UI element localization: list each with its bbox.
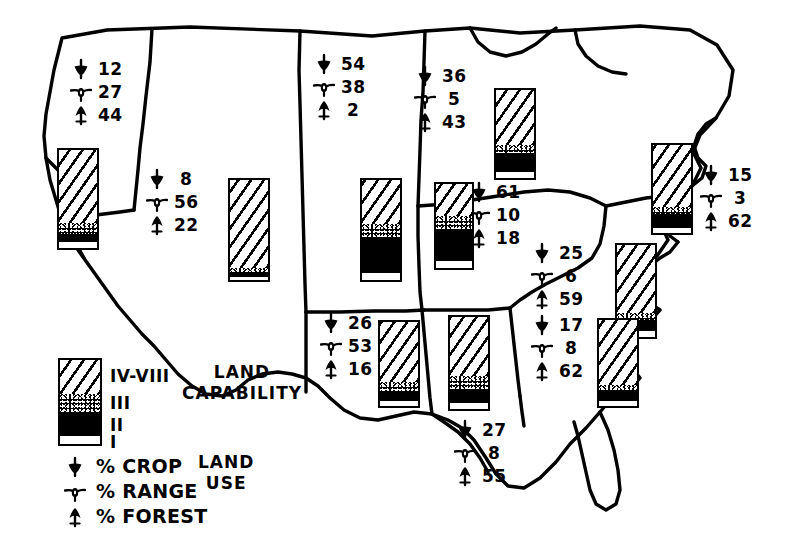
crop-arrow-down-icon xyxy=(320,312,342,334)
stat-value-range: 8 xyxy=(488,442,500,464)
stat-row-crop: 8 xyxy=(146,167,199,190)
capability-bar-delta-states xyxy=(448,315,490,411)
crop-arrow-down-icon xyxy=(313,53,335,75)
capability-bar-pacific xyxy=(57,148,99,250)
stat-value-forest: 18 xyxy=(496,227,521,249)
capability-segment-ii xyxy=(362,237,400,273)
range-circle-icon xyxy=(70,81,92,103)
legend-segment-iii xyxy=(60,394,100,412)
stat-row-crop: 15 xyxy=(700,163,753,186)
range-circle-icon xyxy=(414,88,436,110)
crop-arrow-down-icon xyxy=(320,312,342,334)
capability-segment-ii xyxy=(653,214,691,228)
stat-row-range: 6 xyxy=(531,264,584,287)
range-circle-icon xyxy=(64,481,86,503)
region-stats-appalachian: 25659 xyxy=(531,241,584,310)
range-circle-icon xyxy=(531,337,553,359)
range-circle-icon xyxy=(320,335,342,357)
legend-class-label-i: I xyxy=(110,434,117,451)
stat-row-crop: 17 xyxy=(531,313,584,336)
stat-row-crop: 26 xyxy=(320,311,373,334)
legend-segment-i xyxy=(60,436,100,444)
stat-row-forest: 55 xyxy=(454,464,507,487)
legend-class-label-iv-viii: IV-VIII xyxy=(110,368,170,385)
legend-class-label-iii: III xyxy=(110,395,130,412)
stat-row-forest: 62 xyxy=(700,209,753,232)
crop-arrow-down-icon xyxy=(146,168,168,190)
forest-tree-icon xyxy=(531,360,553,382)
stat-row-range: 56 xyxy=(146,190,199,213)
capability-segment-i xyxy=(380,401,418,406)
capability-segment-iii xyxy=(496,145,534,154)
stat-value-crop: 36 xyxy=(442,65,467,87)
capability-segment-iv-viii xyxy=(362,180,400,224)
range-circle-icon xyxy=(414,88,436,110)
capability-bar-northeast xyxy=(651,143,693,235)
range-circle-icon xyxy=(313,76,335,98)
crop-arrow-down-icon xyxy=(531,314,553,336)
capability-bar-corn-belt xyxy=(434,182,474,270)
crop-arrow-down-icon xyxy=(64,456,86,478)
range-circle-icon xyxy=(531,265,553,287)
capability-segment-i xyxy=(59,242,97,248)
crop-arrow-down-icon xyxy=(454,419,476,441)
stat-value-crop: 26 xyxy=(348,312,373,334)
capability-bar-lake-states xyxy=(494,88,536,180)
stat-row-crop: 54 xyxy=(313,52,366,75)
region-stats-southern-plains: 265316 xyxy=(320,311,373,380)
capability-segment-iv-viii xyxy=(599,320,637,385)
stat-value-forest: 22 xyxy=(174,214,199,236)
forest-tree-icon xyxy=(320,358,342,380)
stat-row-range: 3 xyxy=(700,186,753,209)
capability-segment-ii xyxy=(599,391,637,400)
crop-arrow-down-icon xyxy=(70,58,92,80)
stat-row-forest: 2 xyxy=(313,98,366,121)
capability-segment-iv-viii xyxy=(450,317,488,376)
crop-arrow-down-icon xyxy=(700,164,722,186)
crop-arrow-down-icon xyxy=(414,65,436,87)
capability-segment-i xyxy=(436,261,472,268)
stat-value-range: 5 xyxy=(448,88,460,110)
range-circle-icon xyxy=(70,81,92,103)
legend-key-label: % RANGE xyxy=(96,479,198,504)
caption-land-capability: LANDCAPABILITY xyxy=(182,362,302,404)
stat-value-crop: 8 xyxy=(180,168,192,190)
stat-value-crop: 17 xyxy=(559,314,584,336)
stat-row-range: 8 xyxy=(531,336,584,359)
stat-row-range: 27 xyxy=(70,80,123,103)
forest-tree-icon xyxy=(700,210,722,232)
stat-row-crop: 27 xyxy=(454,418,507,441)
range-circle-icon xyxy=(146,191,168,213)
caption-line: USE xyxy=(198,473,254,494)
forest-tree-icon xyxy=(454,465,476,487)
forest-tree-icon xyxy=(700,210,722,232)
forest-tree-icon xyxy=(146,214,168,236)
region-stats-corn-belt: 611018 xyxy=(468,180,521,249)
capability-segment-iv-viii xyxy=(617,245,655,313)
stat-value-range: 3 xyxy=(734,187,746,209)
stat-value-range: 27 xyxy=(98,81,123,103)
stat-value-crop: 27 xyxy=(482,419,507,441)
stat-value-forest: 43 xyxy=(442,111,467,133)
crop-arrow-down-icon xyxy=(313,53,335,75)
caption-line: LAND xyxy=(182,362,302,383)
range-circle-icon xyxy=(454,442,476,464)
capability-segment-iv-viii xyxy=(496,90,534,145)
stat-row-range: 53 xyxy=(320,334,373,357)
crop-arrow-down-icon xyxy=(454,419,476,441)
crop-arrow-down-icon xyxy=(146,168,168,190)
stat-value-forest: 2 xyxy=(347,99,359,121)
stat-value-crop: 25 xyxy=(559,242,584,264)
legend-key-range: % RANGE xyxy=(64,479,207,504)
range-circle-icon xyxy=(531,265,553,287)
forest-tree-icon xyxy=(531,288,553,310)
forest-tree-icon xyxy=(414,111,436,133)
range-circle-icon xyxy=(700,187,722,209)
legend-capability-bar xyxy=(58,358,102,446)
capability-segment-iv-viii xyxy=(436,184,472,216)
stat-row-range: 38 xyxy=(313,75,366,98)
capability-segment-iii xyxy=(653,207,691,214)
capability-segment-ii xyxy=(59,234,97,242)
legend-landuse-keys: % CROP% RANGE% FOREST xyxy=(64,454,207,529)
stat-row-range: 5 xyxy=(414,87,467,110)
